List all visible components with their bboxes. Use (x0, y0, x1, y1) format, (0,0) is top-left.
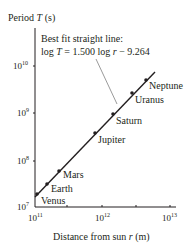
point-jupiter (93, 131, 97, 135)
x-tick-label: 1013 (162, 212, 177, 223)
y-tick-label: 1010 (13, 60, 28, 71)
label-earth: Earth (51, 183, 73, 194)
y-axis-label: Period T (s) (8, 12, 55, 24)
data-points (35, 78, 148, 196)
point-earth (45, 182, 49, 186)
point-neptune (144, 78, 148, 82)
point-mars (57, 169, 61, 173)
x-tick-label: 1012 (95, 212, 110, 223)
y-tick-label: 107 (17, 201, 29, 212)
label-mars: Mars (63, 169, 84, 180)
annotation-leader-line (96, 59, 117, 104)
fit-equation: log T = 1.500 log r − 9.264 (41, 46, 150, 57)
fit-title: Best fit straight line: (41, 33, 123, 44)
point-uranus (130, 91, 134, 95)
chart: Period T (s) 1010 109 108 107 1011 1012 … (0, 0, 194, 248)
point-venus (35, 192, 39, 196)
x-tick-label: 1011 (28, 212, 43, 223)
point-saturn (111, 112, 115, 116)
y-tick-label: 108 (17, 155, 29, 166)
y-tick-label: 109 (17, 107, 29, 118)
label-venus: Venus (41, 195, 66, 206)
label-neptune: Neptune (149, 80, 183, 91)
label-saturn: Saturn (116, 115, 142, 126)
label-uranus: Uranus (135, 94, 164, 105)
label-jupiter: Jupiter (98, 134, 126, 145)
x-axis-label: Distance from sun r (m) (53, 231, 150, 243)
